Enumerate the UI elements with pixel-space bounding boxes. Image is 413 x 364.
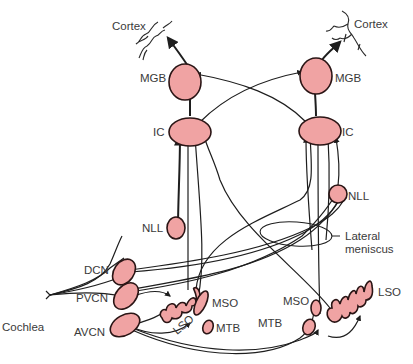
fiber-pvcn-to-ic (128, 190, 338, 292)
mgb-left-node (169, 64, 201, 100)
label-dcn: DCN (84, 264, 109, 276)
label-cortex-left: Cortex (112, 20, 146, 32)
lso-right-node (327, 281, 372, 322)
nll-left-node (167, 217, 185, 239)
fiber-ll-to-ic-right-2 (326, 138, 329, 240)
label-nll-left: NLL (142, 222, 164, 234)
nll-right-node (329, 185, 347, 203)
label-ic-right: IC (342, 126, 354, 138)
fiber-mso-to-ic-left (195, 136, 202, 298)
fiber-nll-to-ic-left (178, 136, 180, 228)
fiber-ic-right-to-mgb-left (196, 74, 306, 122)
fiber-nll-to-ic-right (336, 138, 339, 186)
ic-left-node (169, 118, 211, 146)
fiber-mgb-left-to-cortex (168, 38, 188, 66)
fiber-ic-left-to-mgb-right (200, 72, 302, 122)
label-cortex-right: Cortex (354, 18, 388, 30)
fiber-pvcn-to-lso (134, 292, 170, 297)
label-cochlea: Cochlea (2, 321, 45, 333)
label-lateral: Lateral (345, 230, 380, 242)
ic-right-node (299, 117, 341, 145)
fiber-lso-to-ic-right (196, 136, 311, 290)
mso-right-node (311, 300, 321, 316)
avcn-node (106, 308, 144, 341)
label-mtb-right: MTB (258, 317, 283, 329)
label-pvcn: PVCN (76, 292, 108, 304)
fiber-mgb-right-to-cortex (322, 42, 340, 60)
label-mso-right: MSO (283, 295, 309, 307)
label-avcn: AVCN (74, 326, 105, 338)
label-meniscus: meniscus (345, 243, 394, 255)
auditory-pathway-diagram: Cortex Cortex MGB MGB IC IC NLL NLL Late… (0, 0, 413, 364)
label-mtb-left: MTB (216, 322, 241, 334)
cochlea-nerve-end (46, 291, 50, 299)
label-mgb-right: MGB (335, 72, 362, 84)
pvcn-node (109, 278, 144, 314)
mtb-left-node (201, 319, 215, 336)
mgb-right-node (300, 58, 332, 94)
label-mgb-left: MGB (140, 72, 167, 84)
label-nll-right: NLL (348, 190, 370, 202)
label-ic-left: IC (153, 126, 165, 138)
label-lso-right: LSO (378, 286, 401, 298)
label-mso-left: MSO (212, 297, 238, 309)
